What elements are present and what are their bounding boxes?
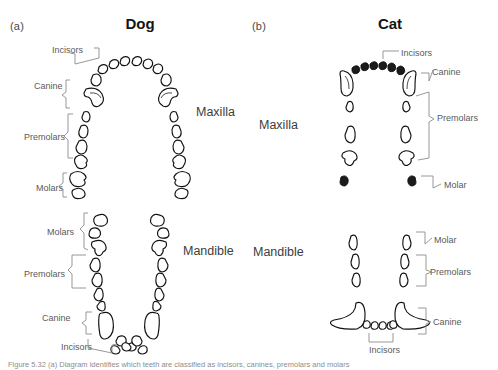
cat-maxilla-left-teeth (340, 71, 357, 186)
brace-dog-man-premolars (68, 255, 86, 288)
dog-maxilla-arch (59, 48, 190, 199)
dog-mandible-right-teeth (111, 214, 169, 354)
cat-mandible-arch (330, 232, 432, 342)
tooth-diagram-svg (0, 0, 498, 370)
brace-dog-man-canine (82, 312, 92, 334)
cat-mandible-left-teeth (349, 235, 360, 287)
brace-cat-max-premolars (416, 92, 434, 160)
brace-cat-man-incisors (369, 333, 393, 342)
cat-mandible-canines-incisors (330, 302, 429, 329)
cat-mandible-right-teeth (400, 235, 411, 287)
cat-maxilla-arch (340, 51, 441, 188)
brace-dog-man-molars (80, 213, 88, 250)
dental-anatomy-figure: (a) (b) Dog Cat Maxilla Mandible Maxilla… (0, 0, 498, 370)
brace-dog-max-incisors (70, 48, 99, 64)
dog-mandible-arch (68, 213, 169, 354)
dog-maxilla-left-teeth (70, 74, 104, 199)
brace-cat-max-molar (421, 176, 441, 188)
brace-cat-man-molar (416, 232, 432, 244)
cat-maxilla-right-teeth (399, 71, 416, 186)
dog-maxilla-incisors (98, 57, 163, 74)
brace-cat-man-premolars (416, 255, 432, 286)
brace-cat-max-incisors (383, 51, 399, 59)
brace-cat-max-canine (421, 70, 433, 81)
brace-dog-max-canine (62, 80, 70, 108)
figure-caption: Figure 5.32 (a) Diagram identifies which… (8, 360, 494, 369)
dog-maxilla-right-teeth (159, 74, 191, 199)
brace-dog-max-molars (59, 173, 67, 197)
cat-maxilla-incisors (352, 62, 405, 75)
dog-mandible-left-teeth (89, 214, 147, 354)
brace-dog-max-premolars (64, 114, 73, 158)
